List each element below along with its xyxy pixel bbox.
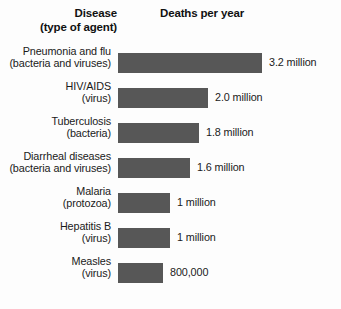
table-row: Malaria(protozoa)1 million [0, 185, 341, 220]
bar-track [118, 158, 190, 178]
table-row: Pneumonia and flu(bacteria and viruses)3… [0, 45, 341, 80]
row-label-agent: (virus) [0, 267, 111, 279]
row-label-disease: HIV/AIDS(virus) [0, 80, 111, 105]
bar-value-label: 1 million [177, 196, 216, 208]
table-row: Hepatitis B(virus)1 million [0, 220, 341, 255]
bar-track [118, 123, 199, 143]
table-row: Diarrheal diseases(bacteria and viruses)… [0, 150, 341, 185]
bar-value-label: 2.0 million [215, 91, 263, 103]
row-label-name: HIV/AIDS [0, 80, 111, 92]
bar-value-label: 1.6 million [197, 161, 245, 173]
row-label-disease: Tuberculosis(bacteria) [0, 115, 111, 140]
row-label-name: Pneumonia and flu [0, 45, 111, 57]
bar [118, 193, 170, 213]
bar-track [118, 228, 170, 248]
row-label-agent: (bacteria) [0, 127, 111, 139]
bar [118, 123, 199, 143]
column-header-disease-line1: Disease [0, 7, 117, 21]
table-row: Measles(virus)800,000 [0, 255, 341, 290]
row-label-agent: (bacteria and viruses) [0, 57, 111, 69]
bar [118, 53, 262, 73]
bar-track [118, 53, 262, 73]
row-label-disease: Measles(virus) [0, 255, 111, 280]
row-label-disease: Pneumonia and flu(bacteria and viruses) [0, 45, 111, 70]
column-header-disease: Disease (type of agent) [0, 7, 117, 34]
bar-rows: Pneumonia and flu(bacteria and viruses)3… [0, 45, 341, 290]
column-header-deaths: Deaths per year [160, 7, 244, 21]
disease-deaths-bar-chart: Disease (type of agent) Deaths per year … [0, 0, 341, 309]
bar-track [118, 193, 170, 213]
bar [118, 263, 163, 283]
bar-value-label: 1 million [177, 231, 216, 243]
row-label-agent: (virus) [0, 232, 111, 244]
column-header-disease-line2: (type of agent) [0, 21, 117, 35]
row-label-name: Tuberculosis [0, 115, 111, 127]
row-label-agent: (protozoa) [0, 197, 111, 209]
table-row: HIV/AIDS(virus)2.0 million [0, 80, 341, 115]
bar-track [118, 88, 208, 108]
bar-track [118, 263, 163, 283]
bar [118, 88, 208, 108]
row-label-name: Measles [0, 255, 111, 267]
row-label-disease: Malaria(protozoa) [0, 185, 111, 210]
bar [118, 228, 170, 248]
row-label-agent: (bacteria and viruses) [0, 162, 111, 174]
row-label-disease: Hepatitis B(virus) [0, 220, 111, 245]
bar-value-label: 1.8 million [206, 126, 254, 138]
row-label-agent: (virus) [0, 92, 111, 104]
chart-header: Disease (type of agent) Deaths per year [0, 7, 341, 41]
row-label-name: Hepatitis B [0, 220, 111, 232]
row-label-name: Diarrheal diseases [0, 150, 111, 162]
bar [118, 158, 190, 178]
row-label-disease: Diarrheal diseases(bacteria and viruses) [0, 150, 111, 175]
table-row: Tuberculosis(bacteria)1.8 million [0, 115, 341, 150]
row-label-name: Malaria [0, 185, 111, 197]
bar-value-label: 3.2 million [269, 56, 317, 68]
bar-value-label: 800,000 [170, 266, 208, 278]
